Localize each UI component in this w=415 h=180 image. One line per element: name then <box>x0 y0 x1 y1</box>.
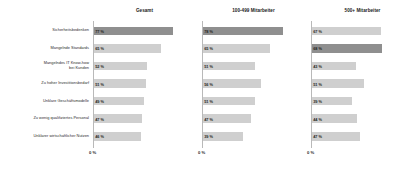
bar: 65 % <box>203 44 270 53</box>
panel-title: 100-499 Mitarbeiter <box>201 8 306 13</box>
bar-value-label: 46 % <box>95 134 104 139</box>
bar-value-label: 68 % <box>313 46 322 51</box>
category-label: Zu wenig qualifiziertes Personal <box>0 110 92 128</box>
bar-value-label: 51 % <box>313 81 322 86</box>
bar-value-label: 47 % <box>313 134 322 139</box>
bar: 47 % <box>312 132 361 141</box>
bar: 77 % <box>94 27 174 36</box>
bar-value-label: 65 % <box>95 46 104 51</box>
panel-title: Gesamt <box>92 8 197 13</box>
bar-row: 51 % <box>201 57 306 75</box>
bar-value-label: 52 % <box>95 63 104 68</box>
category-label-line: Sicherheitsbedenken <box>52 28 89 33</box>
category-label-line: Mangelnde Standards <box>51 46 89 51</box>
bar-row: 51 % <box>92 75 197 93</box>
panel-gesamt: Gesamt 77 %65 %52 %51 %49 %47 %46 % 0 % <box>92 0 197 180</box>
bar: 46 % <box>94 132 142 141</box>
bar: 51 % <box>203 62 256 71</box>
bar-value-label: 49 % <box>95 99 104 104</box>
bar: 78 % <box>203 27 284 36</box>
bar-value-label: 65 % <box>204 46 213 51</box>
bar-row: 47 % <box>201 110 306 128</box>
bar: 39 % <box>312 97 352 106</box>
bar-row: 39 % <box>310 92 415 110</box>
grouped-bar-chart: Sicherheitsbedenken Mangelnde Standards … <box>0 0 415 180</box>
category-label: Unklarer wirtschaftlicher Nutzen <box>0 128 92 146</box>
category-label: Mangelnde Standards <box>0 40 92 58</box>
bar-row: 78 % <box>201 22 306 40</box>
bar: 51 % <box>203 97 256 106</box>
category-label-line: bei Kunden <box>44 66 89 71</box>
bar: 43 % <box>312 62 356 71</box>
bar: 39 % <box>203 132 243 141</box>
bar-group: 77 %65 %52 %51 %49 %47 %46 % <box>92 22 197 145</box>
bar: 44 % <box>312 114 357 123</box>
bar-row: 47 % <box>310 128 415 146</box>
bar-value-label: 39 % <box>204 134 213 139</box>
bar-value-label: 77 % <box>95 28 104 33</box>
bar-row: 46 % <box>92 128 197 146</box>
bar-row: 65 % <box>201 40 306 58</box>
category-label-column: Sicherheitsbedenken Mangelnde Standards … <box>0 0 92 180</box>
bar: 68 % <box>312 44 382 53</box>
bar-row: 77 % <box>92 22 197 40</box>
bar: 52 % <box>94 62 148 71</box>
bar-row: 43 % <box>310 57 415 75</box>
bar-value-label: 43 % <box>313 63 322 68</box>
bar-group: 78 %65 %51 %56 %51 %47 %39 % <box>201 22 306 145</box>
bar-value-label: 47 % <box>204 116 213 121</box>
bar: 56 % <box>203 79 261 88</box>
bar-row: 56 % <box>201 75 306 93</box>
category-label: Unklare Geschäftsmodelle <box>0 92 92 110</box>
bar-value-label: 51 % <box>95 81 104 86</box>
panel-container: Sicherheitsbedenken Mangelnde Standards … <box>0 0 415 180</box>
bar: 49 % <box>94 97 145 106</box>
bar-row: 65 % <box>92 40 197 58</box>
bar-value-label: 51 % <box>204 63 213 68</box>
bar: 51 % <box>312 79 365 88</box>
category-label: Mangelndes IT Know-how bei Kunden <box>0 57 92 75</box>
bar-row: 51 % <box>310 75 415 93</box>
bar-group: 67 %68 %43 %51 %39 %44 %47 % <box>310 22 415 145</box>
panel-title: 500+ Mitarbeiter <box>310 8 415 13</box>
bar-value-label: 67 % <box>313 28 322 33</box>
category-label-line: Unklarer wirtschaftlicher Nutzen <box>33 134 89 139</box>
bar: 51 % <box>94 79 147 88</box>
bar-value-label: 44 % <box>313 116 322 121</box>
category-label-line: Zu hoher Investitionsbedarf <box>41 81 89 86</box>
bar-row: 68 % <box>310 40 415 58</box>
axis-origin-label: 0 % <box>307 150 314 155</box>
bar: 65 % <box>94 44 161 53</box>
bar-value-label: 47 % <box>95 116 104 121</box>
category-label-line: Zu wenig qualifiziertes Personal <box>33 116 89 121</box>
bar-row: 47 % <box>92 110 197 128</box>
bar-row: 39 % <box>201 128 306 146</box>
bar-row: 67 % <box>310 22 415 40</box>
bar: 67 % <box>312 27 381 36</box>
bar-value-label: 51 % <box>204 99 213 104</box>
bar: 47 % <box>94 114 143 123</box>
bar-value-label: 39 % <box>313 99 322 104</box>
bar: 47 % <box>203 114 252 123</box>
panel-100-499-mitarbeiter: 100-499 Mitarbeiter 78 %65 %51 %56 %51 %… <box>201 0 306 180</box>
axis-origin-label: 0 % <box>89 150 96 155</box>
axis-origin-label: 0 % <box>198 150 205 155</box>
bar-row: 44 % <box>310 110 415 128</box>
category-label: Sicherheitsbedenken <box>0 22 92 40</box>
bar-value-label: 56 % <box>204 81 213 86</box>
category-label-line: Unklare Geschäftsmodelle <box>43 99 89 104</box>
category-label: Zu hoher Investitionsbedarf <box>0 75 92 93</box>
bar-row: 49 % <box>92 92 197 110</box>
panel-500plus-mitarbeiter: 500+ Mitarbeiter 67 %68 %43 %51 %39 %44 … <box>310 0 415 180</box>
bar-row: 51 % <box>201 92 306 110</box>
bar-row: 52 % <box>92 57 197 75</box>
bar-value-label: 78 % <box>204 28 213 33</box>
